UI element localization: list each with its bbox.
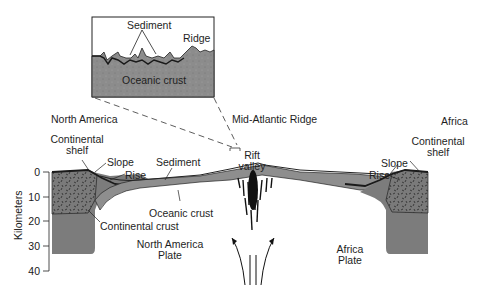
mid-atlantic-ridge-title: Mid-Atlantic Ridge [232,114,317,125]
sediment-label: Sediment [156,157,200,168]
left-slope-label: Slope [107,157,134,168]
inset-ridge-label: Ridge [183,33,210,44]
right-rise-label: Rise [369,170,390,181]
inset-sediment-label: Sediment [127,20,171,31]
right-continental-shelf-label: Continental shelf [408,136,468,158]
continental-crust-label: Continental crust [100,221,179,232]
right-slope-label: Slope [381,158,408,169]
y-tick-0: 0 [18,166,40,178]
left-rise-label: Rise [125,170,146,181]
africa-plate-label: Africa Plate [330,244,370,266]
rift-valley-label: Rift valley [232,150,272,172]
y-axis [43,172,49,271]
north-america-label: North America [51,114,118,125]
north-america-plate-label: North America Plate [130,239,210,261]
y-tick-40: 40 [18,265,40,277]
oceanic-crust-label: Oceanic crust [149,208,213,219]
y-axis-label: Kilometers [12,190,24,240]
y-tick-30: 30 [18,240,40,252]
magma-upwelling [232,170,274,285]
africa-label: Africa [441,116,468,127]
inset-oceanic-crust-label: Oceanic crust [122,75,186,86]
left-continental-shelf-label: Continental shelf [48,134,106,156]
